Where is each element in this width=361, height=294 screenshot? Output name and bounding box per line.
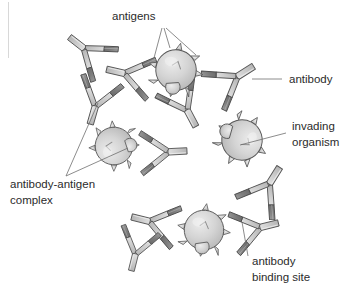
antibody-upper-left <box>56 19 121 84</box>
label-invading-organism-line1: invading <box>292 120 335 132</box>
organism-right <box>205 103 278 176</box>
label-complex-line2: complex <box>10 194 53 206</box>
label-antigens: antigens <box>112 10 156 22</box>
label-binding-site-line1: antibody <box>252 255 296 267</box>
antibody-bottom-right <box>227 201 284 256</box>
antibody-right-lower <box>233 155 300 222</box>
antibody-mid-right <box>138 128 188 176</box>
organism-bottom <box>176 202 232 258</box>
diagram-canvas: antigens antibody invading organism anti… <box>0 0 361 294</box>
leader-antigens-a <box>154 28 162 58</box>
organism-left <box>86 118 141 173</box>
label-complex-line1: antibody-antigen <box>10 178 95 190</box>
label-invading-organism-line2: organism <box>292 136 339 148</box>
leader-complex-a <box>66 103 98 176</box>
antibody-mid-left <box>68 72 125 130</box>
antibody-antigen-diagram: antigens antibody invading organism anti… <box>0 0 361 294</box>
label-antibody: antibody <box>289 73 333 85</box>
label-binding-site-line2: binding site <box>252 271 310 283</box>
organism-top <box>145 39 206 100</box>
antibody-top-right <box>199 46 266 113</box>
